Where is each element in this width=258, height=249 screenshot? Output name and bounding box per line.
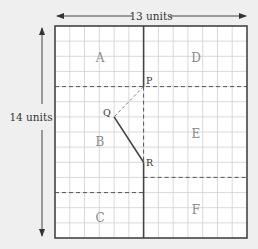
point-label-r: R: [146, 157, 154, 168]
width-label: 13 units: [129, 10, 172, 22]
point-label-p: P: [146, 75, 153, 86]
point-label-q: Q: [103, 107, 111, 118]
region-label-a: A: [95, 51, 105, 65]
height-label: 14 units: [9, 111, 52, 123]
region-label-f: F: [192, 203, 200, 217]
partition-diagram: 13 units 14 units A B C D E F P Q R: [0, 0, 258, 249]
region-label-e: E: [192, 127, 201, 141]
region-label-c: C: [95, 211, 104, 225]
region-label-b: B: [96, 135, 105, 149]
region-label-d: D: [191, 51, 201, 65]
